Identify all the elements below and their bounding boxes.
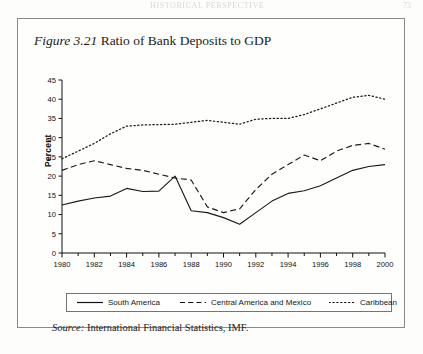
- line-dotted-key: [329, 299, 355, 306]
- legend-label-south-america: South America: [108, 298, 160, 307]
- figure-label: Figure 3.21: [34, 33, 97, 48]
- page-number: 73: [403, 1, 411, 10]
- running-head: HISTORICAL PERSPECTIVE 73: [0, 0, 423, 16]
- legend-item-south-america: South America: [77, 298, 160, 307]
- line-solid-key: [77, 299, 103, 306]
- chart-legend: South America Central America and Mexico…: [66, 293, 392, 312]
- legend-item-central-america: Central America and Mexico: [180, 298, 311, 307]
- figure-title: Figure 3.21 Ratio of Bank Deposits to GD…: [34, 33, 271, 49]
- legend-label-caribbean: Caribbean: [360, 298, 397, 307]
- scanned-page: HISTORICAL PERSPECTIVE 73 Figure 3.21 Ra…: [0, 0, 423, 354]
- source-text: International Financial Statistics, IMF.: [87, 322, 249, 333]
- source-label: Source:: [52, 322, 84, 333]
- line-dashed-key: [180, 299, 206, 306]
- source-note: Source: International Financial Statisti…: [52, 322, 248, 333]
- y-axis-label: Percent: [43, 134, 53, 167]
- running-head-title: HISTORICAL PERSPECTIVE: [150, 1, 264, 10]
- legend-label-central-america: Central America and Mexico: [211, 298, 311, 307]
- figure-box: Figure 3.21 Ratio of Bank Deposits to GD…: [17, 18, 405, 328]
- legend-item-caribbean: Caribbean: [329, 298, 397, 307]
- figure-title-text: Ratio of Bank Deposits to GDP: [101, 33, 272, 48]
